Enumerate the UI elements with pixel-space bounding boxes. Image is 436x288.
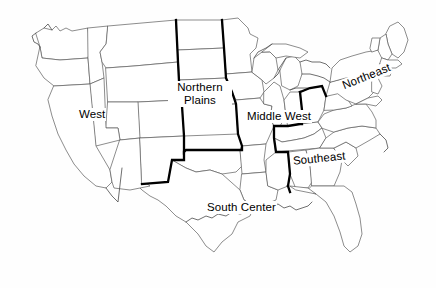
region-label-south-center: South Center (206, 201, 277, 214)
region-label-northern-plains-line2: Plains (184, 94, 216, 106)
region-label-northern-plains-line1: Northern (177, 81, 223, 93)
region-label-northern-plains: Northern Plains (168, 81, 232, 107)
state-outlines (36, 18, 408, 252)
region-label-middle-west: Middle West (246, 110, 312, 123)
us-regional-map: Northern Plains West Middle West Northea… (0, 0, 436, 288)
region-label-west: West (78, 108, 106, 121)
map-graphic (0, 0, 436, 288)
